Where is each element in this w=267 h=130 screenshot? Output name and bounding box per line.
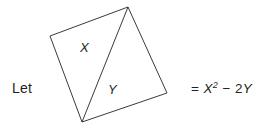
quadrilateral-outline bbox=[50, 7, 167, 122]
equation-expression: = X2 − 2Y bbox=[191, 82, 252, 96]
minus-operator: − bbox=[222, 81, 230, 96]
region-y-label: Y bbox=[108, 83, 117, 96]
figure-page: Let X Y = X2 − 2Y bbox=[0, 0, 267, 130]
region-x-label: X bbox=[80, 41, 89, 54]
term1-base: X bbox=[203, 81, 212, 96]
quadrilateral-figure bbox=[0, 0, 267, 130]
term2-variable: Y bbox=[243, 81, 252, 96]
let-label: Let bbox=[12, 81, 32, 95]
term2-coefficient: 2 bbox=[235, 81, 243, 96]
